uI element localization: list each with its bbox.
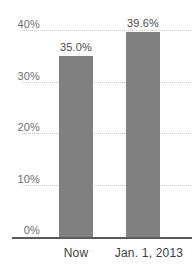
- bar-jan-1-2013[interactable]: [126, 32, 160, 237]
- bar-now[interactable]: [59, 56, 93, 237]
- gridline-30: [22, 82, 191, 83]
- x-tick-label-now: Now: [46, 246, 106, 260]
- bar-chart: 40% 30% 20% 10% 0% 35.0% 39.6% Now Jan. …: [0, 0, 193, 267]
- plot-area: 40% 30% 20% 10% 0% 35.0% 39.6% Now Jan. …: [0, 0, 193, 267]
- bar-value-label-now: 35.0%: [46, 41, 106, 53]
- y-tick-label-20: 20%: [0, 122, 40, 133]
- y-tick-label-40: 40%: [0, 19, 40, 30]
- gridline-10: [22, 185, 191, 186]
- gridline-40: [22, 30, 191, 31]
- bar-value-label-jan-1-2013: 39.6%: [113, 17, 173, 29]
- x-axis-line: [12, 237, 192, 239]
- y-tick-label-0: 0%: [0, 225, 40, 236]
- gridline-20: [22, 133, 191, 134]
- y-tick-label-10: 10%: [0, 174, 40, 185]
- x-tick-label-jan-1-2013: Jan. 1, 2013: [105, 246, 193, 260]
- y-tick-label-30: 30%: [0, 71, 40, 82]
